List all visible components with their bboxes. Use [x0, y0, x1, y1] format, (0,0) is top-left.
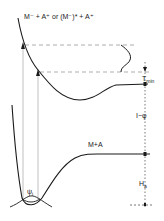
i-minus-phi-label: I−φ: [136, 112, 147, 119]
h-a-sub: a: [144, 183, 147, 189]
lower-curve-label: M+A: [88, 141, 103, 148]
tick-marker: [144, 203, 146, 206]
arrow-down-icon: [143, 67, 147, 72]
t-min-sub: min: [146, 78, 154, 84]
tick-marker: [144, 152, 147, 156]
upper-curve-label: M⁻ + A⁺ or (M⁻)* + A⁺: [24, 13, 94, 20]
psi-subscript: i: [32, 191, 33, 197]
h-a-label: Ha: [139, 180, 147, 189]
t-min-label: Tmin: [142, 75, 154, 84]
psi-label: ψi: [27, 188, 33, 197]
distribution-wave: [121, 45, 131, 72]
upper-potential-curve: [18, 18, 148, 100]
wavefunction-psi: [10, 196, 52, 207]
